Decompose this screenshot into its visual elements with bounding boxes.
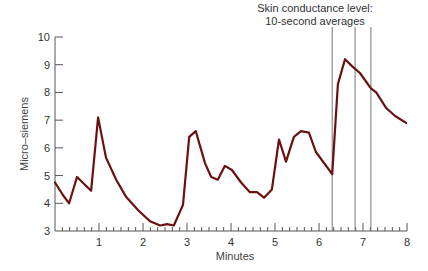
y-tick-label: 6	[44, 142, 50, 154]
y-tick-label: 7	[44, 114, 50, 126]
y-tick-label: 5	[44, 170, 50, 182]
y-tick-label: 8	[44, 86, 50, 98]
y-tick-label: 10	[38, 31, 50, 43]
plot-area	[55, 59, 406, 225]
y-tick-label: 4	[44, 197, 50, 209]
x-tick-label: 6	[316, 236, 322, 248]
vertical-markers	[332, 27, 371, 231]
x-tick-label: 7	[360, 236, 366, 248]
y-tick-label: 3	[44, 225, 50, 237]
x-tick-label: 4	[228, 236, 234, 248]
x-tick-label: 8	[404, 236, 410, 248]
line-chart: 34567891012345678	[0, 0, 428, 271]
axes: 34567891012345678	[38, 31, 410, 248]
x-tick-label: 1	[96, 236, 102, 248]
x-tick-label: 3	[184, 236, 190, 248]
x-tick-label: 5	[272, 236, 278, 248]
y-tick-label: 9	[44, 59, 50, 71]
data-line	[55, 59, 406, 225]
x-tick-label: 2	[140, 236, 146, 248]
